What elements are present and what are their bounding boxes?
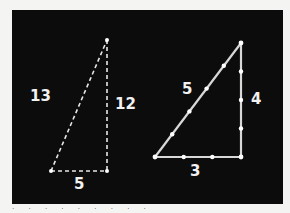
- label-5-base: 5: [74, 177, 84, 192]
- triangle-5-12-13: [51, 40, 107, 171]
- label-4: 4: [251, 92, 261, 107]
- caption-remnant: · · · · · · · · ·: [12, 205, 283, 213]
- triangles-drawing: [0, 0, 290, 213]
- label-5-hyp: 5: [182, 82, 192, 97]
- label-12: 12: [115, 97, 136, 112]
- triangle-3-4-5: [155, 43, 241, 157]
- label-13: 13: [30, 89, 51, 104]
- label-3: 3: [190, 164, 200, 179]
